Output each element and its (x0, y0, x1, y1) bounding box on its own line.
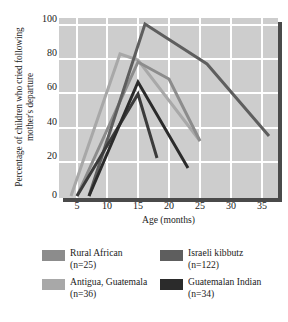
legend-label-israeli-kibbutz: Israeli kibbutz (n=122) (188, 247, 243, 271)
legend-label-text: Rural African (70, 247, 122, 258)
y-tick-0: 0 (31, 190, 57, 200)
legend-label-text: Israeli kibbutz (188, 247, 243, 258)
legend-swatch-antigua-guatemala (42, 279, 65, 290)
x-tick-25: 25 (188, 200, 212, 212)
legend: Rural African (n=25) Antigua, Guatemala … (42, 248, 286, 310)
legend-label-text: Antigua, Guatemala (70, 276, 147, 287)
legend-column-right: Israeli kibbutz (n=122) Guatemalan India… (160, 248, 282, 306)
x-tick-10: 10 (95, 200, 119, 212)
y-tick-40: 40 (31, 117, 57, 127)
legend-item-guatemalan-indian: Guatemalan Indian (n=34) (160, 277, 282, 306)
series-line-israeli-kibbutz (89, 24, 269, 196)
x-tick-35: 35 (250, 200, 274, 212)
plot-svg (59, 18, 278, 198)
x-tick-15: 15 (126, 200, 150, 212)
chart: Percentage of children who cried followi… (0, 0, 288, 232)
y-tick-20: 20 (31, 151, 57, 161)
legend-sample-size: (n=34) (188, 288, 261, 300)
legend-sample-size: (n=36) (70, 288, 147, 300)
y-tick-60: 60 (31, 82, 57, 92)
legend-label-rural-african: Rural African (n=25) (70, 247, 122, 271)
legend-item-israeli-kibbutz: Israeli kibbutz (n=122) (160, 248, 282, 277)
legend-sample-size: (n=122) (188, 259, 243, 271)
legend-label-guatemalan-indian: Guatemalan Indian (n=34) (188, 276, 261, 300)
x-axis-title: Age (months) (59, 214, 278, 225)
legend-column-left: Rural African (n=25) Antigua, Guatemala … (42, 248, 164, 306)
legend-swatch-rural-african (42, 250, 65, 261)
x-tick-5: 5 (65, 200, 89, 212)
y-tick-100: 100 (31, 14, 57, 24)
plot-area (59, 18, 278, 198)
legend-item-rural-african: Rural African (n=25) (42, 248, 164, 277)
legend-sample-size: (n=25) (70, 259, 122, 271)
legend-swatch-guatemalan-indian (160, 279, 183, 290)
y-axis-tick-labels: 100 80 60 40 20 0 (25, 0, 57, 232)
legend-swatch-israeli-kibbutz (160, 250, 183, 261)
legend-label-text: Guatemalan Indian (188, 276, 261, 287)
y-tick-80: 80 (31, 48, 57, 58)
x-tick-20: 20 (157, 200, 181, 212)
legend-item-antigua-guatemala: Antigua, Guatemala (n=36) (42, 277, 164, 306)
legend-label-antigua-guatemala: Antigua, Guatemala (n=36) (70, 276, 147, 300)
x-tick-30: 30 (219, 200, 243, 212)
figure: Percentage of children who cried followi… (0, 0, 288, 322)
